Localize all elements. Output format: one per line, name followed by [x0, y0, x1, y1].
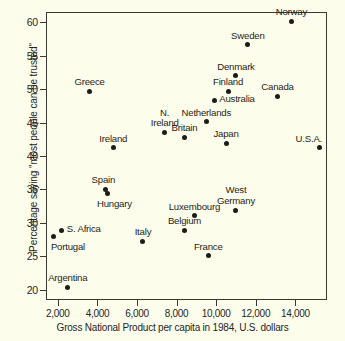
x-tick-mark — [216, 300, 217, 306]
x-tick-label: 12,000 — [241, 308, 270, 319]
data-point-label: Japan — [213, 129, 238, 140]
data-point-label: Greece — [74, 77, 104, 88]
plot-area — [46, 12, 327, 300]
data-point — [87, 89, 92, 94]
scatter-plot-figure: 202530354045505560 2,0004,0006,0008,0001… — [0, 0, 345, 341]
x-tick-mark — [295, 300, 296, 306]
x-tick-label: 10,000 — [202, 308, 231, 319]
data-point — [289, 19, 294, 24]
y-axis-title: Percentage saying "most people can be tr… — [28, 3, 39, 293]
data-point — [212, 98, 217, 103]
y-tick-mark — [40, 156, 46, 157]
data-point — [224, 141, 229, 146]
data-point-label: S. Africa — [67, 224, 101, 235]
y-tick-mark — [40, 290, 46, 291]
data-point-label: U.S.A. — [296, 134, 323, 145]
data-point-label: Australia — [219, 94, 255, 105]
data-point-label: Luxembourg — [169, 202, 220, 213]
y-tick-mark — [40, 22, 46, 23]
data-point-label: WestGermany — [217, 185, 255, 206]
y-tick-mark — [40, 56, 46, 57]
y-tick-mark — [40, 256, 46, 257]
data-point-label: Belgium — [168, 216, 201, 227]
data-point — [182, 135, 187, 140]
data-point-label: Netherlands — [182, 108, 232, 119]
data-point — [275, 94, 280, 99]
x-tick-mark — [58, 300, 59, 306]
x-tick-mark — [137, 300, 138, 306]
x-tick-label: 4,000 — [86, 308, 110, 319]
data-point — [105, 191, 110, 196]
data-point-label: Denmark — [217, 62, 255, 73]
data-point-label: Sweden — [231, 31, 264, 42]
data-point-label: Ireland — [99, 134, 127, 145]
data-point-label: Portugal — [51, 242, 85, 253]
x-tick-label: 8,000 — [165, 308, 189, 319]
data-point-label: Spain — [92, 175, 116, 186]
data-point-label: Finland — [213, 77, 243, 88]
x-tick-label: 14,000 — [281, 308, 310, 319]
x-tick-mark — [97, 300, 98, 306]
data-point-label: Hungary — [97, 199, 132, 210]
x-tick-label: 2,000 — [46, 308, 70, 319]
x-axis-title: Gross National Product per capita in 198… — [0, 322, 345, 333]
data-point-label: Britain — [172, 123, 198, 134]
data-point-label: Norway — [276, 7, 307, 18]
x-tick-mark — [177, 300, 178, 306]
data-point — [182, 228, 187, 233]
data-point-label: France — [194, 242, 223, 253]
y-tick-mark — [40, 223, 46, 224]
y-tick-mark — [40, 123, 46, 124]
x-tick-mark — [256, 300, 257, 306]
x-tick-label: 6,000 — [125, 308, 149, 319]
y-tick-mark — [40, 89, 46, 90]
data-point-label: Canada — [261, 82, 293, 93]
data-point-label: Italy — [135, 227, 152, 238]
data-point-label: Argentina — [48, 273, 87, 284]
y-tick-mark — [40, 189, 46, 190]
